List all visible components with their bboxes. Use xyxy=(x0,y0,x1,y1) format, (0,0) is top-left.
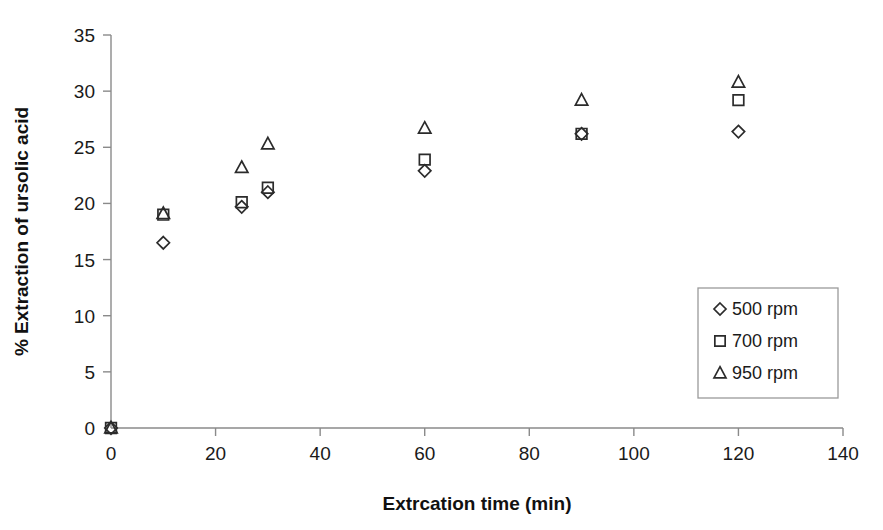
data-point xyxy=(157,237,169,249)
data-point xyxy=(732,125,744,137)
x-tick-label: 80 xyxy=(519,443,540,464)
x-axis-title: Extrcation time (min) xyxy=(383,493,572,514)
x-tick-label: 120 xyxy=(723,443,755,464)
legend-label: 500 rpm xyxy=(732,299,798,319)
data-point xyxy=(732,76,744,87)
data-point xyxy=(262,137,274,148)
x-tick-label: 0 xyxy=(106,443,117,464)
chart-container: 05101520253035020406080100120140Extrcati… xyxy=(0,0,883,530)
y-tick-label: 30 xyxy=(74,81,95,102)
series-950-rpm xyxy=(105,76,745,433)
x-tick-label: 40 xyxy=(310,443,331,464)
y-tick-label: 35 xyxy=(74,25,95,46)
y-tick-label: 10 xyxy=(74,306,95,327)
x-tick-label: 140 xyxy=(827,443,859,464)
y-tick-label: 0 xyxy=(84,418,95,439)
data-point xyxy=(419,122,431,133)
data-point xyxy=(733,95,744,106)
data-point xyxy=(263,182,274,193)
y-tick-label: 5 xyxy=(84,362,95,383)
data-point xyxy=(236,161,248,172)
legend-label: 700 rpm xyxy=(732,331,798,351)
series-700-rpm xyxy=(106,95,744,434)
y-tick-label: 20 xyxy=(74,193,95,214)
legend-label: 950 rpm xyxy=(732,363,798,383)
data-point xyxy=(419,165,431,177)
y-axis-title: % Extraction of ursolic acid xyxy=(11,107,32,356)
data-point xyxy=(419,154,430,165)
data-point xyxy=(575,128,587,140)
y-tick-label: 15 xyxy=(74,250,95,271)
x-tick-label: 60 xyxy=(414,443,435,464)
scatter-plot: 05101520253035020406080100120140Extrcati… xyxy=(0,0,883,530)
data-point xyxy=(575,94,587,105)
data-point xyxy=(576,128,587,139)
y-tick-label: 25 xyxy=(74,137,95,158)
data-point xyxy=(236,197,247,208)
x-tick-label: 20 xyxy=(205,443,226,464)
x-tick-label: 100 xyxy=(618,443,650,464)
series-500-rpm xyxy=(105,125,745,434)
